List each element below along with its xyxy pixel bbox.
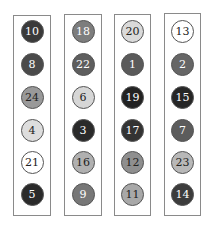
numbered-ball[interactable]: 5	[21, 183, 44, 206]
numbered-ball[interactable]: 21	[21, 151, 44, 174]
numbered-ball[interactable]: 2	[171, 53, 194, 76]
numbered-ball[interactable]: 15	[171, 86, 194, 109]
numbered-ball[interactable]: 8	[21, 53, 44, 76]
numbered-ball[interactable]: 11	[121, 183, 144, 206]
numbered-ball[interactable]: 9	[72, 183, 95, 206]
numbered-ball[interactable]: 1	[121, 53, 144, 76]
numbered-ball[interactable]: 17	[121, 119, 144, 142]
numbered-ball[interactable]: 19	[121, 86, 144, 109]
numbered-ball[interactable]: 10	[21, 20, 44, 43]
numbered-ball[interactable]: 12	[121, 151, 144, 174]
numbered-ball[interactable]: 3	[72, 119, 95, 142]
numbered-ball[interactable]: 22	[72, 53, 95, 76]
numbered-ball[interactable]: 6	[72, 86, 95, 109]
numbered-ball[interactable]: 4	[21, 119, 44, 142]
numbered-ball[interactable]: 16	[72, 151, 95, 174]
numbered-ball[interactable]: 7	[171, 119, 194, 142]
numbered-ball[interactable]: 24	[21, 86, 44, 109]
numbered-ball[interactable]: 18	[72, 20, 95, 43]
numbered-ball[interactable]: 23	[171, 151, 194, 174]
numbered-ball[interactable]: 14	[171, 183, 194, 206]
numbered-ball[interactable]: 20	[121, 20, 144, 43]
numbered-ball[interactable]: 13	[171, 20, 194, 43]
